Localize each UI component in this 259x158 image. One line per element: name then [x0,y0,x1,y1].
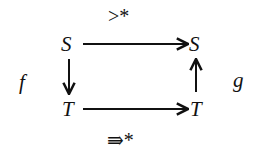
node-bottom-left: T [62,99,74,120]
label-f: f [19,72,25,93]
label-bottom-relation: ⇛* [107,130,134,150]
label-top-relation: >* [108,6,129,26]
label-g: g [233,70,244,91]
node-top-left: S [61,34,72,55]
node-top-right: S [189,34,200,55]
node-bottom-right: T [190,99,202,120]
